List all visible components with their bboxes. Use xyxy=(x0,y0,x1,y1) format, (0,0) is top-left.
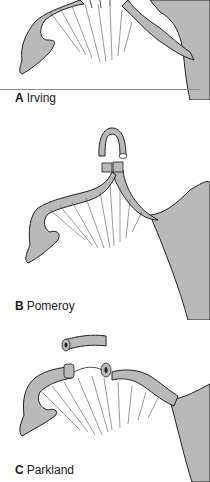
panel-label-irving: AIrving xyxy=(15,91,56,105)
panel-label-parkland: CParkland xyxy=(15,463,74,477)
irving-illustration xyxy=(0,0,210,100)
panel-name: Parkland xyxy=(27,463,74,477)
panel-pomeroy: BPomeroy xyxy=(0,120,210,320)
pomeroy-illustration xyxy=(0,120,210,320)
panel-label-pomeroy: BPomeroy xyxy=(15,299,75,313)
panel-name: Pomeroy xyxy=(27,299,75,313)
divider-line xyxy=(0,89,200,90)
parkland-illustration xyxy=(0,320,210,482)
panel-letter: C xyxy=(15,463,24,477)
panel-irving: AIrving xyxy=(0,0,210,100)
panel-parkland: CParkland xyxy=(0,320,210,482)
panel-letter: B xyxy=(15,299,24,313)
panel-letter: A xyxy=(15,91,24,105)
panel-name: Irving xyxy=(27,91,56,105)
